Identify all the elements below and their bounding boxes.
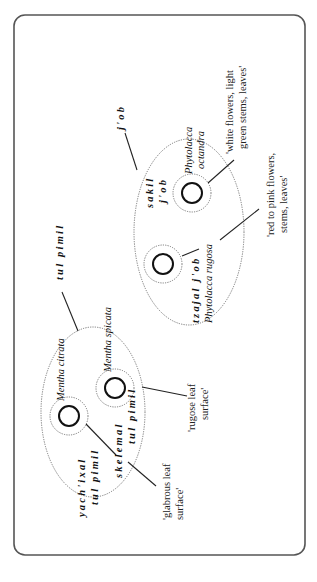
folk-name-octandra-line2: j'ob [157,178,168,205]
sci-name-octandra-line1: Phytolacca [183,127,194,175]
core-circle-octandra [182,183,202,203]
sci-name-spicata: Mentha spicata [102,307,113,373]
sci-name-rugosa: Phytolacca rugosa [203,244,214,324]
gloss-octandra-line1: 'white flowers, light [224,70,235,154]
folk-name-rugosa: tzajal j'ob [190,257,201,324]
diagram-frame [14,15,305,555]
gloss-rugosa-line1: 'red to pink flowers, [265,153,276,237]
gloss-octandra-line2: green stems, leaves' [237,66,248,149]
folk-name-spicata-line1: skelemal [113,422,124,479]
core-circle-citrata [59,406,79,426]
folk-name-octandra-line1: sakil [144,177,155,209]
folk-name-spicata-line2: tul pimil [126,388,137,444]
taxon-mentha-spicata: Mentha spicata skelemal tul pimil 'rugos… [96,307,210,479]
core-circle-spicata [105,378,125,398]
folk-name-citrata-line2: tul pimil [89,449,100,505]
sci-name-octandra-line2: octandra [195,131,206,169]
core-circle-rugosa [153,254,173,274]
folk-taxonomy-diagram: j'ob sakil j'ob Phytolacca octandra 'whi… [0,0,317,582]
gloss-rugosa-line2: stems, leaves' [278,176,289,233]
leader-rugosa-gloss [220,209,259,240]
gloss-citrata-line1: 'glabrous leaf [161,463,172,520]
taxon-phytolacca-octandra: sakil j'ob Phytolacca octandra 'white fl… [144,66,248,212]
halo-rugosa [144,245,182,283]
group-label-tul-pimil: tul pimil [54,224,65,280]
halo-citrata [50,397,88,435]
leader-rugosa-folk [182,249,199,256]
gloss-spicata-line2: surface' [199,388,210,420]
leader-job-label [125,133,137,170]
folk-name-citrata-line1: yach'ixal [76,458,87,519]
gloss-citrata-line2: surface' [174,488,185,520]
group-job: j'ob sakil j'ob Phytolacca octandra 'whi… [115,66,289,325]
group-tul-pimil: tul pimil Mentha citrata yach'ixal tul p… [41,224,210,520]
leader-citrata-gloss [128,462,156,486]
leader-octandra-gloss [208,160,234,183]
gloss-spicata-line1: 'rugose leaf [186,383,197,432]
leader-tul-pimil-label [62,292,78,331]
group-label-job: j'ob [115,105,126,132]
leader-spicata-gloss [142,387,187,396]
halo-octandra [173,174,211,212]
sci-name-citrata: Mentha citrata [55,338,66,402]
